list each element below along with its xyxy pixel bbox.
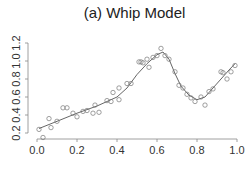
data-point <box>91 111 95 115</box>
data-point <box>47 116 51 120</box>
data-point <box>37 127 41 131</box>
data-point <box>117 86 121 90</box>
data-point <box>147 65 151 69</box>
data-point <box>225 77 229 81</box>
data-point <box>111 90 115 94</box>
x-tick-label: 1.0 <box>229 144 244 156</box>
y-tick-label: 1.2 <box>10 35 22 50</box>
y-tick-label: 0.2 <box>10 125 22 140</box>
x-tick-label: 0.6 <box>149 144 164 156</box>
data-points <box>37 46 237 140</box>
x-tick-label: 0.0 <box>29 144 44 156</box>
data-point <box>229 70 233 74</box>
data-point <box>75 115 79 119</box>
data-point <box>203 103 207 107</box>
data-point <box>145 57 149 61</box>
x-tick-label: 0.8 <box>189 144 204 156</box>
data-point <box>159 46 163 50</box>
data-point <box>49 125 53 129</box>
x-tick-label: 0.4 <box>109 144 124 156</box>
x-tick-label: 0.2 <box>69 144 84 156</box>
y-tick-label: 1.0 <box>10 53 22 68</box>
data-point <box>97 110 101 114</box>
y-tick-label: 0.6 <box>10 89 22 104</box>
chart-plot: 0.00.20.40.60.81.00.20.40.60.81.01.2 <box>0 0 249 173</box>
y-tick-label: 0.8 <box>10 71 22 86</box>
data-point <box>117 98 121 102</box>
data-point <box>193 99 197 103</box>
y-tick-label: 0.4 <box>10 107 22 122</box>
